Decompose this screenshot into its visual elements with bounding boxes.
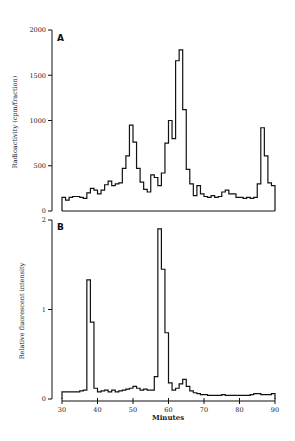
panel-a-label: A xyxy=(57,33,64,43)
y-tick-label: 1 xyxy=(42,306,46,314)
y-tick-label: 1000 xyxy=(29,117,46,125)
y-tick-label: 2 xyxy=(42,216,46,224)
panel-b-label: B xyxy=(57,222,64,232)
x-tick-label: 70 xyxy=(200,406,208,414)
x-tick-label: 50 xyxy=(129,406,137,414)
panel-a-y-axis: 0500100015002000 xyxy=(29,26,52,215)
y-tick-label: 2000 xyxy=(29,26,46,34)
panel-b-x-axis: 30405060708090 xyxy=(58,398,279,414)
x-tick-label: 40 xyxy=(93,406,101,414)
y-tick-label: 0 xyxy=(42,207,46,215)
y-tick-label: 0 xyxy=(42,395,46,403)
x-tick-label: 80 xyxy=(235,406,243,414)
x-tick-label: 30 xyxy=(58,406,66,414)
x-axis-title: Minutes xyxy=(152,413,184,422)
panel-b: B Relative fluorescent intensity 012 304… xyxy=(18,216,279,422)
panel-a: A Radioactivity (cpm/fraction) 050010001… xyxy=(11,26,275,215)
figure: A Radioactivity (cpm/fraction) 050010001… xyxy=(0,0,295,441)
x-tick-label: 90 xyxy=(271,406,279,414)
y-tick-label: 500 xyxy=(34,162,46,170)
panel-b-y-axis-title: Relative fluorescent intensity xyxy=(18,262,26,359)
panel-a-y-axis-title: Radioactivity (cpm/fraction) xyxy=(11,75,19,168)
panel-b-fluorescence-trace xyxy=(62,229,275,399)
y-tick-label: 1500 xyxy=(29,72,46,80)
panel-b-y-axis: 012 xyxy=(42,216,52,403)
panel-a-radioactivity-trace xyxy=(62,50,275,211)
